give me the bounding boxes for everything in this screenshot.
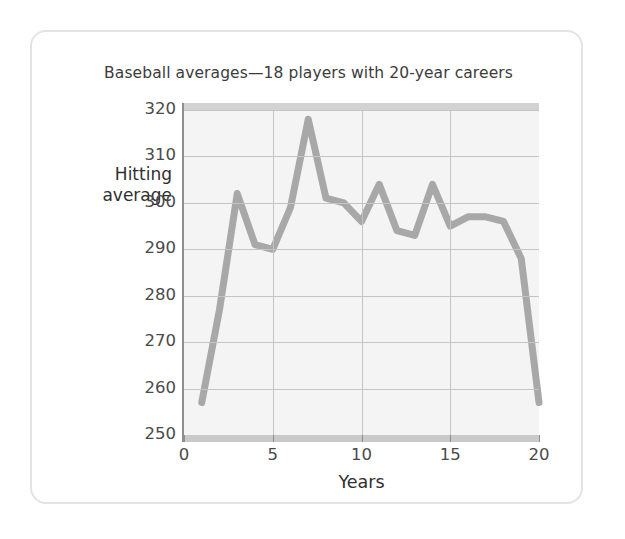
plot-top-band <box>184 103 539 110</box>
x-axis-tick <box>450 435 451 442</box>
x-axis-tick <box>273 435 274 442</box>
x-axis-tick-label: 0 <box>164 445 204 464</box>
gridline-vertical <box>450 110 451 435</box>
chart-title: Baseball averages—18 players with 20-yea… <box>32 64 585 82</box>
x-axis-tick-label: 15 <box>430 445 470 464</box>
gridline-vertical <box>362 110 363 435</box>
y-axis-title-line1: Hitting <box>74 164 172 185</box>
chart-card: Baseball averages—18 players with 20-yea… <box>30 30 583 504</box>
x-axis-tick <box>362 435 363 442</box>
series-line <box>202 119 539 402</box>
y-axis-tick-label: 290 <box>130 238 176 257</box>
x-axis-title: Years <box>184 472 539 492</box>
y-axis-tick-label: 320 <box>130 99 176 118</box>
plot-inner <box>184 110 539 435</box>
x-axis-tick-label: 10 <box>342 445 382 464</box>
y-axis-tick-label: 280 <box>130 285 176 304</box>
gridline-vertical <box>273 110 274 435</box>
y-axis-tick-label: 270 <box>130 331 176 350</box>
x-axis-tick <box>184 435 185 442</box>
plot-area <box>184 110 539 435</box>
screenshot-root: Baseball averages—18 players with 20-yea… <box>0 0 625 539</box>
x-axis-tick <box>539 435 540 442</box>
y-axis-tick-label: 310 <box>130 145 176 164</box>
x-axis-tick-label: 5 <box>253 445 293 464</box>
y-axis-tick-label: 250 <box>130 424 176 443</box>
y-axis-tick-label: 260 <box>130 378 176 397</box>
y-axis-tick-label: 300 <box>130 192 176 211</box>
x-axis-tick-label: 20 <box>519 445 559 464</box>
